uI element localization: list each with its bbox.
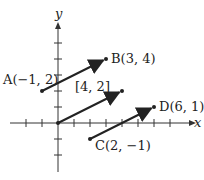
vector-origin bbox=[58, 93, 119, 124]
label-B: B(3, 4) bbox=[111, 51, 156, 66]
coordinate-plane: y x A(−1, 2) B(3, 4) [4, 2] D(6, 1) C(2,… bbox=[0, 0, 204, 180]
x-axis-label: x bbox=[194, 115, 202, 130]
point-A bbox=[40, 89, 44, 93]
point-B bbox=[104, 57, 108, 61]
point-C bbox=[88, 137, 92, 141]
label-vector: [4, 2] bbox=[75, 79, 110, 94]
vector-diagram: y x A(−1, 2) B(3, 4) [4, 2] D(6, 1) C(2,… bbox=[0, 0, 204, 180]
vector-CD bbox=[90, 109, 151, 140]
y-axis-label: y bbox=[54, 6, 63, 21]
label-C: C(2, −1) bbox=[95, 138, 151, 153]
label-D: D(6, 1) bbox=[159, 99, 204, 114]
point-D bbox=[152, 105, 156, 109]
label-A: A(−1, 2) bbox=[2, 72, 58, 87]
